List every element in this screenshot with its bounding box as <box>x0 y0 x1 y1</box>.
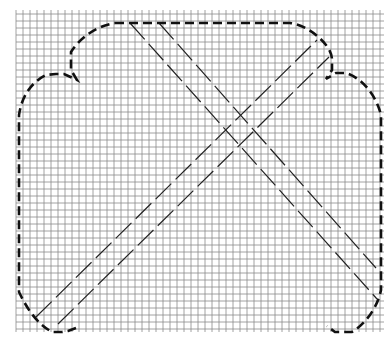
diagonal-guide-lines <box>36 23 377 324</box>
diagonal-up-right-inner <box>58 57 329 324</box>
graph-paper-grid <box>16 10 384 332</box>
pattern-svg <box>0 0 392 339</box>
pattern-diagram <box>0 0 392 339</box>
